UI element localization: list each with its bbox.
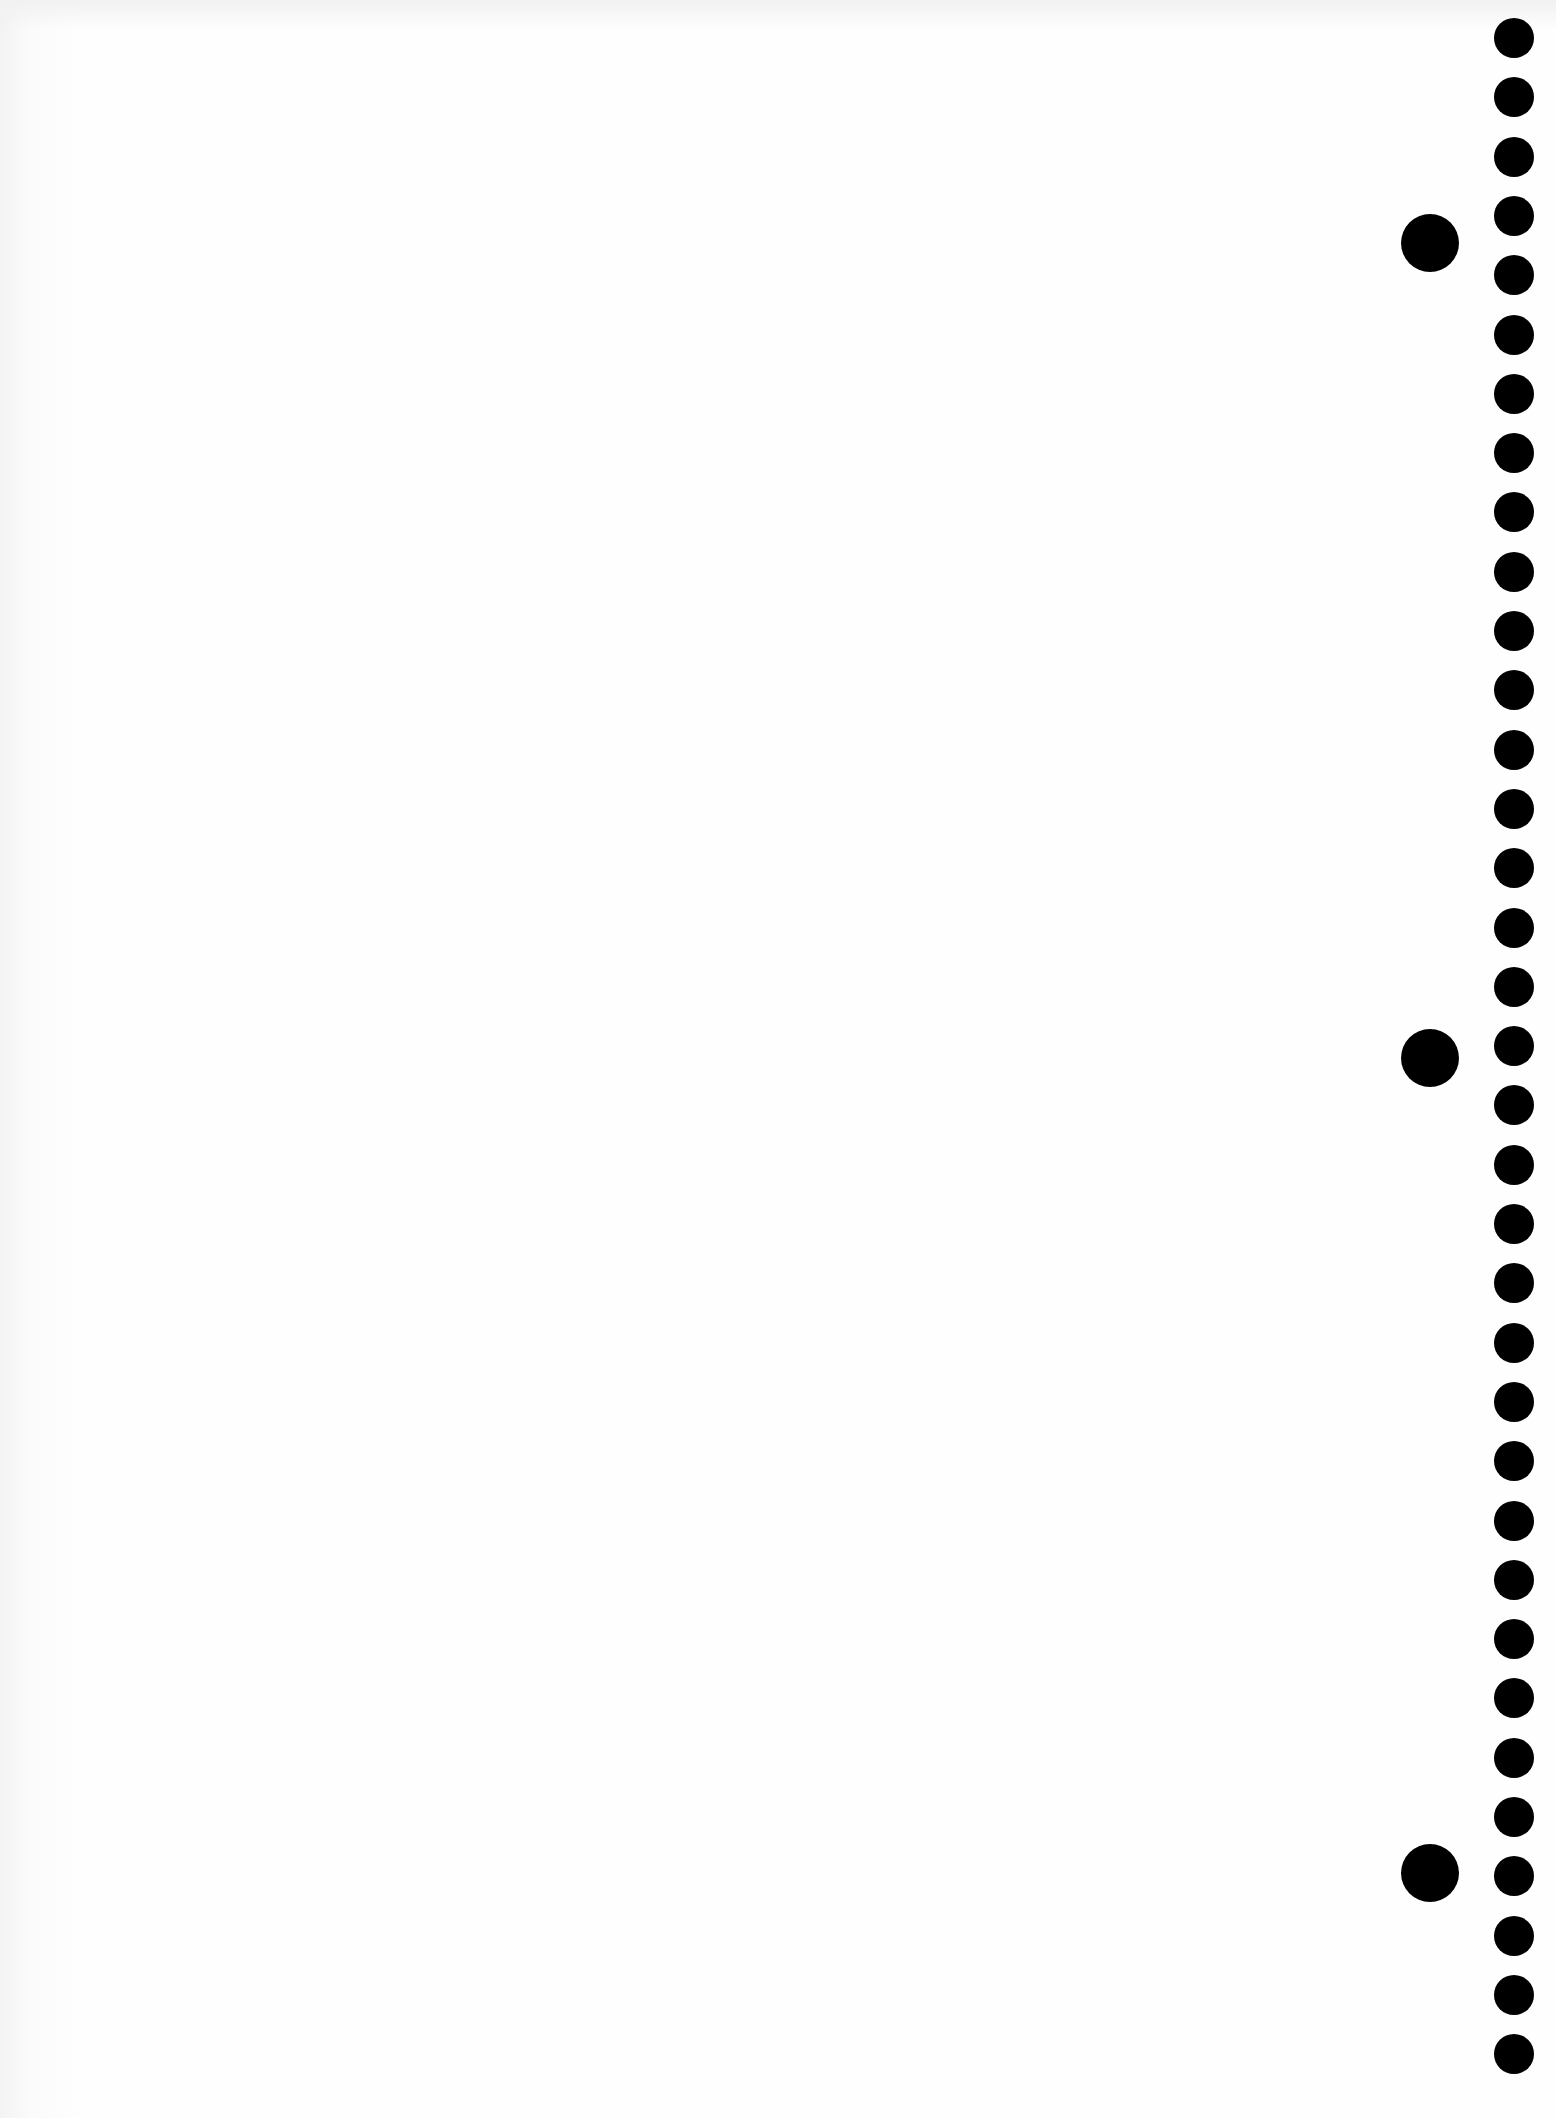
small-binding-hole bbox=[1494, 1797, 1534, 1837]
small-binding-hole bbox=[1494, 908, 1534, 948]
small-binding-hole bbox=[1494, 2034, 1534, 2074]
small-binding-hole bbox=[1494, 137, 1534, 177]
small-binding-hole bbox=[1494, 196, 1534, 236]
small-binding-hole bbox=[1494, 1026, 1534, 1066]
small-binding-hole bbox=[1494, 1085, 1534, 1125]
notebook-page bbox=[0, 0, 1556, 2118]
small-binding-hole bbox=[1494, 848, 1534, 888]
small-binding-hole bbox=[1494, 1678, 1534, 1718]
small-binding-hole bbox=[1494, 18, 1534, 58]
scan-shadow bbox=[0, 0, 1556, 30]
small-binding-hole bbox=[1494, 730, 1534, 770]
small-binding-hole bbox=[1494, 1856, 1534, 1896]
small-binding-hole bbox=[1494, 670, 1534, 710]
large-binding-hole bbox=[1401, 214, 1459, 272]
small-binding-hole bbox=[1494, 789, 1534, 829]
small-binding-hole bbox=[1494, 492, 1534, 532]
small-binding-hole bbox=[1494, 1916, 1534, 1956]
small-binding-hole bbox=[1494, 77, 1534, 117]
small-binding-hole bbox=[1494, 967, 1534, 1007]
small-binding-hole bbox=[1494, 611, 1534, 651]
small-binding-hole bbox=[1494, 1204, 1534, 1244]
small-binding-hole bbox=[1494, 315, 1534, 355]
small-binding-hole bbox=[1494, 552, 1534, 592]
small-binding-hole bbox=[1494, 1738, 1534, 1778]
small-binding-hole bbox=[1494, 1619, 1534, 1659]
small-binding-hole bbox=[1494, 1975, 1534, 2015]
small-binding-hole bbox=[1494, 374, 1534, 414]
small-binding-hole bbox=[1494, 1441, 1534, 1481]
small-binding-hole bbox=[1494, 1560, 1534, 1600]
large-binding-hole bbox=[1401, 1029, 1459, 1087]
small-binding-hole bbox=[1494, 1145, 1534, 1185]
small-binding-hole bbox=[1494, 255, 1534, 295]
small-binding-hole bbox=[1494, 433, 1534, 473]
small-binding-hole bbox=[1494, 1323, 1534, 1363]
small-binding-hole bbox=[1494, 1263, 1534, 1303]
small-binding-hole bbox=[1494, 1382, 1534, 1422]
large-binding-hole bbox=[1401, 1844, 1459, 1902]
small-binding-hole bbox=[1494, 1501, 1534, 1541]
